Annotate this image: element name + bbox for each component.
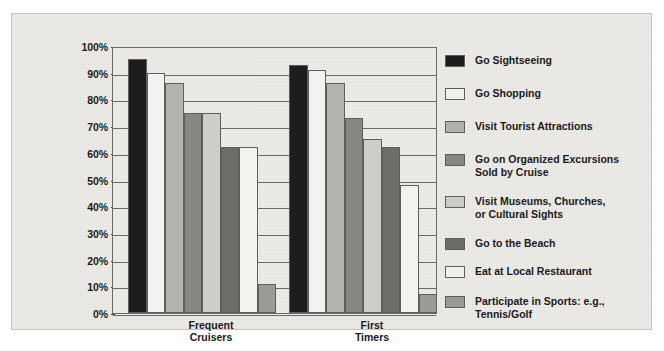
legend-swatch-icon: [445, 266, 465, 278]
y-axis-tick-label: 80%: [87, 94, 108, 106]
bar: [326, 83, 345, 313]
y-axis-tick-label: 0%: [93, 308, 108, 320]
x-axis-category-label: Frequent Cruisers: [151, 319, 271, 343]
legend-swatch-icon: [445, 238, 465, 250]
bar: [289, 65, 308, 313]
bar: [258, 284, 277, 313]
y-axis-tick-label: 40%: [87, 201, 108, 213]
bar: [308, 70, 327, 313]
legend-item-label: Go Sightseeing: [475, 54, 552, 67]
legend-swatch-icon: [445, 196, 465, 208]
legend-item[interactable]: Eat at Local Restaurant: [445, 265, 592, 278]
legend-item[interactable]: Go to the Beach: [445, 237, 556, 250]
legend-item-label: Go on Organized Excursions Sold by Cruis…: [475, 153, 619, 178]
bar: [400, 185, 419, 313]
bar: [128, 59, 147, 313]
legend-swatch-icon: [445, 121, 465, 133]
bar: [184, 113, 203, 313]
legend-item[interactable]: Visit Museums, Churches, or Cultural Sig…: [445, 195, 606, 220]
bar: [165, 83, 184, 313]
plot-area: [112, 47, 437, 314]
legend-item-label: Go Shopping: [475, 87, 541, 100]
y-axis-tick-label: 20%: [87, 255, 108, 267]
y-axis-tick-label: 50%: [87, 175, 108, 187]
legend-swatch-icon: [445, 154, 465, 166]
legend-swatch-icon: [445, 296, 465, 308]
y-axis-tick-label: 30%: [87, 228, 108, 240]
y-axis-tick-label: 70%: [87, 121, 108, 133]
legend-item-label: Visit Museums, Churches, or Cultural Sig…: [475, 195, 606, 220]
legend-item-label: Participate in Sports: e.g., Tennis/Golf: [475, 295, 605, 320]
bar: [239, 147, 258, 313]
bar-group: [289, 48, 437, 313]
legend-item[interactable]: Go on Organized Excursions Sold by Cruis…: [445, 153, 619, 178]
legend-item[interactable]: Visit Tourist Attractions: [445, 120, 593, 133]
y-axis: 100%90%80%70%60%50%40%30%20%10%0%: [67, 47, 108, 314]
legend-item[interactable]: Go Shopping: [445, 87, 541, 100]
legend-item[interactable]: Participate in Sports: e.g., Tennis/Golf: [445, 295, 605, 320]
bar: [382, 147, 401, 313]
bar: [345, 118, 364, 313]
y-axis-tick-label: 60%: [87, 148, 108, 160]
figure-panel: 100%90%80%70%60%50%40%30%20%10%0% Freque…: [11, 13, 652, 330]
bar: [363, 139, 382, 313]
legend-item[interactable]: Go Sightseeing: [445, 54, 552, 67]
bar-group: [128, 48, 276, 313]
gridline: [113, 315, 436, 316]
bar: [202, 113, 221, 313]
y-axis-tick-label: 100%: [82, 41, 108, 53]
legend-item-label: Visit Tourist Attractions: [475, 120, 593, 133]
legend-item-label: Eat at Local Restaurant: [475, 265, 592, 278]
y-axis-tick-label: 90%: [87, 68, 108, 80]
legend-swatch-icon: [445, 55, 465, 67]
chart-screenshot: 100%90%80%70%60%50%40%30%20%10%0% Freque…: [0, 0, 664, 351]
y-axis-tick-label: 10%: [87, 281, 108, 293]
bar: [419, 294, 438, 313]
x-axis-category-label: First Timers: [312, 319, 432, 343]
bar: [221, 147, 240, 313]
legend-swatch-icon: [445, 88, 465, 100]
bar: [147, 73, 166, 313]
legend-item-label: Go to the Beach: [475, 237, 556, 250]
